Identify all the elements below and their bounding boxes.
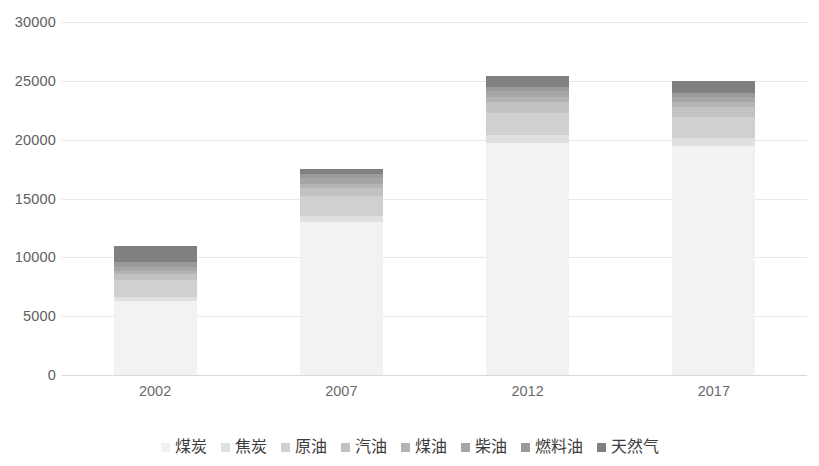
bar-segment[interactable] [486, 143, 569, 375]
bar-segment[interactable] [486, 113, 569, 135]
legend-item[interactable]: 柴油 [461, 439, 507, 455]
stacked-bar-chart: 050001000015000200002500030000 200220072… [0, 0, 819, 466]
bar-segment[interactable] [300, 222, 383, 375]
legend-item[interactable]: 焦炭 [221, 439, 267, 455]
bar-segment[interactable] [672, 81, 755, 93]
y-tick-label: 10000 [0, 249, 56, 265]
legend-item[interactable]: 原油 [281, 439, 327, 455]
legend-label: 燃料油 [535, 439, 583, 455]
bar-segment[interactable] [672, 107, 755, 118]
bar-stack[interactable] [114, 22, 197, 375]
x-tick-label: 2002 [139, 383, 171, 399]
bar-segment[interactable] [300, 196, 383, 216]
bar-segment[interactable] [300, 216, 383, 222]
bar-segment[interactable] [300, 174, 383, 179]
bar-segment[interactable] [672, 138, 755, 145]
bar-segment[interactable] [672, 117, 755, 138]
legend-item[interactable]: 煤炭 [161, 439, 207, 455]
legend-swatch-icon [281, 443, 290, 452]
bar-segment[interactable] [300, 184, 383, 188]
bar-segment[interactable] [114, 274, 197, 280]
bar-segment[interactable] [486, 76, 569, 87]
bar-segment[interactable] [114, 297, 197, 301]
legend-item[interactable]: 煤油 [401, 439, 447, 455]
y-tick-label: 30000 [0, 14, 56, 30]
legend-label: 原油 [295, 439, 327, 455]
legend-swatch-icon [401, 443, 410, 452]
bar-segment[interactable] [300, 169, 383, 174]
x-tick-label: 2007 [325, 383, 357, 399]
bar-segment[interactable] [486, 87, 569, 92]
legend-item[interactable]: 汽油 [341, 439, 387, 455]
bar-segment[interactable] [486, 102, 569, 113]
legend-swatch-icon [521, 443, 530, 452]
y-axis: 050001000015000200002500030000 [0, 0, 56, 466]
bar-segment[interactable] [486, 97, 569, 102]
x-tick-label: 2012 [511, 383, 543, 399]
legend-label: 煤炭 [175, 439, 207, 455]
legend-swatch-icon [221, 443, 230, 452]
bar-segment[interactable] [114, 271, 197, 273]
bar-segment[interactable] [114, 267, 197, 272]
gridline [62, 375, 807, 376]
legend-swatch-icon [341, 443, 350, 452]
bar-stack[interactable] [486, 22, 569, 375]
legend-swatch-icon [161, 443, 170, 452]
legend-item[interactable]: 天然气 [597, 439, 659, 455]
x-tick-label: 2017 [698, 383, 730, 399]
x-axis: 2002200720122017 [62, 383, 807, 407]
legend-item[interactable]: 燃料油 [521, 439, 583, 455]
bar-segment[interactable] [486, 135, 569, 143]
bar-segment[interactable] [114, 280, 197, 298]
legend-label: 柴油 [475, 439, 507, 455]
bar-segment[interactable] [672, 97, 755, 102]
y-tick-label: 25000 [0, 73, 56, 89]
bar-segment[interactable] [114, 262, 197, 267]
bar-segment[interactable] [114, 301, 197, 375]
bar-segment[interactable] [300, 188, 383, 196]
y-tick-label: 5000 [0, 308, 56, 324]
bars-layer [62, 22, 807, 375]
bar-segment[interactable] [486, 91, 569, 97]
bar-segment[interactable] [114, 246, 197, 262]
bar-segment[interactable] [672, 146, 755, 375]
y-tick-label: 15000 [0, 191, 56, 207]
legend-label: 天然气 [611, 439, 659, 455]
legend-label: 煤油 [415, 439, 447, 455]
y-tick-label: 20000 [0, 132, 56, 148]
legend-label: 汽油 [355, 439, 387, 455]
legend-swatch-icon [461, 443, 470, 452]
bar-stack[interactable] [672, 22, 755, 375]
legend-label: 焦炭 [235, 439, 267, 455]
legend-swatch-icon [597, 443, 606, 452]
y-tick-label: 0 [0, 367, 56, 383]
bar-stack[interactable] [300, 22, 383, 375]
bar-segment[interactable] [672, 93, 755, 97]
bar-segment[interactable] [300, 178, 383, 184]
chart-legend: 煤炭焦炭原油汽油煤油柴油燃料油天然气 [0, 432, 819, 462]
bar-segment[interactable] [672, 102, 755, 107]
